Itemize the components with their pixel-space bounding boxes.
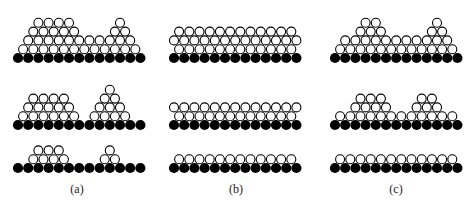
adatom-ball bbox=[376, 27, 385, 36]
adatom-ball bbox=[110, 27, 119, 36]
adatom-ball bbox=[100, 94, 109, 103]
substrate-ball bbox=[432, 53, 442, 63]
adatom-ball bbox=[49, 94, 58, 103]
adatom-ball bbox=[116, 103, 125, 112]
adatom-ball bbox=[397, 112, 406, 121]
adatom-ball bbox=[100, 45, 109, 54]
substrate-ball bbox=[412, 120, 422, 130]
adatom-ball bbox=[236, 27, 245, 36]
adatom-ball bbox=[341, 36, 350, 45]
adatom-ball bbox=[100, 112, 109, 121]
configuration-c-3 bbox=[330, 155, 463, 173]
substrate-ball bbox=[350, 120, 360, 130]
adatom-ball bbox=[427, 112, 436, 121]
substrate-ball bbox=[330, 163, 340, 173]
substrate-ball bbox=[281, 53, 291, 63]
substrate-ball bbox=[95, 53, 105, 63]
adatom-ball bbox=[34, 103, 43, 112]
adatom-ball bbox=[185, 45, 194, 54]
adatom-ball bbox=[49, 155, 58, 164]
substrate-ball bbox=[230, 163, 240, 173]
adatom-ball bbox=[34, 18, 43, 27]
substrate-ball bbox=[381, 163, 391, 173]
adatom-ball bbox=[175, 155, 184, 164]
adatom-ball bbox=[59, 45, 68, 54]
adatom-ball bbox=[366, 112, 375, 121]
panel-b bbox=[169, 27, 302, 173]
adatom-ball bbox=[90, 45, 99, 54]
adatom-ball bbox=[105, 103, 114, 112]
adatom-ball bbox=[121, 45, 130, 54]
adatom-ball bbox=[39, 27, 48, 36]
substrate-ball bbox=[271, 53, 281, 63]
adatom-ball bbox=[402, 36, 411, 45]
substrate-ball bbox=[74, 163, 84, 173]
adatom-ball bbox=[54, 36, 63, 45]
substrate-ball bbox=[261, 120, 271, 130]
configuration-a-2 bbox=[13, 85, 146, 130]
substrate-ball bbox=[452, 120, 462, 130]
substrate-ball bbox=[23, 53, 33, 63]
adatom-ball bbox=[215, 155, 224, 164]
adatom-ball bbox=[24, 103, 33, 112]
adatom-ball bbox=[116, 18, 125, 27]
substrate-ball bbox=[412, 53, 422, 63]
substrate-ball bbox=[271, 163, 281, 173]
adatom-ball bbox=[366, 155, 375, 164]
adatom-ball bbox=[131, 45, 140, 54]
substrate-ball bbox=[251, 53, 261, 63]
adatom-ball bbox=[427, 155, 436, 164]
substrate-ball bbox=[371, 120, 381, 130]
adatom-ball bbox=[282, 36, 291, 45]
substrate-ball bbox=[33, 53, 43, 63]
adatom-ball bbox=[39, 45, 48, 54]
adatom-ball bbox=[382, 36, 391, 45]
adatom-ball bbox=[448, 155, 457, 164]
adatom-ball bbox=[190, 103, 199, 112]
substrate-ball bbox=[371, 163, 381, 173]
adatom-ball bbox=[376, 155, 385, 164]
substrate-ball bbox=[33, 120, 43, 130]
adatom-ball bbox=[261, 103, 270, 112]
substrate-ball bbox=[210, 120, 220, 130]
adatom-ball bbox=[75, 36, 84, 45]
adatom-ball bbox=[251, 103, 260, 112]
adatom-ball bbox=[246, 27, 255, 36]
substrate-ball bbox=[422, 53, 432, 63]
substrate-ball bbox=[23, 163, 33, 173]
substrate-ball bbox=[220, 120, 230, 130]
adatom-ball bbox=[180, 36, 189, 45]
adatom-ball bbox=[277, 112, 286, 121]
adatom-ball bbox=[190, 36, 199, 45]
substrate-ball bbox=[281, 163, 291, 173]
adatom-ball bbox=[170, 103, 179, 112]
adatom-ball bbox=[256, 155, 265, 164]
substrate-ball bbox=[179, 120, 189, 130]
substrate-ball bbox=[105, 53, 115, 63]
adatom-ball bbox=[205, 45, 214, 54]
adatom-ball bbox=[272, 36, 281, 45]
substrate-ball bbox=[44, 163, 54, 173]
substrate-ball bbox=[84, 53, 94, 63]
adatom-ball bbox=[205, 112, 214, 121]
adatom-ball bbox=[366, 94, 375, 103]
adatom-ball bbox=[215, 45, 224, 54]
adatom-ball bbox=[19, 45, 28, 54]
substrate-ball bbox=[291, 120, 301, 130]
adatom-ball bbox=[246, 45, 255, 54]
adatom-ball bbox=[121, 112, 130, 121]
adatom-ball bbox=[210, 103, 219, 112]
substrate-ball bbox=[105, 163, 115, 173]
adatom-ball bbox=[422, 36, 431, 45]
substrate-ball bbox=[422, 120, 432, 130]
adatom-ball bbox=[29, 27, 38, 36]
adatom-ball bbox=[256, 112, 265, 121]
adatom-ball bbox=[241, 36, 250, 45]
adatom-ball bbox=[438, 45, 447, 54]
adatom-ball bbox=[407, 45, 416, 54]
panel-c-label: (c) bbox=[389, 182, 402, 197]
adatom-ball bbox=[200, 36, 209, 45]
adatom-ball bbox=[336, 112, 345, 121]
substrate-ball bbox=[84, 120, 94, 130]
substrate-ball bbox=[33, 163, 43, 173]
